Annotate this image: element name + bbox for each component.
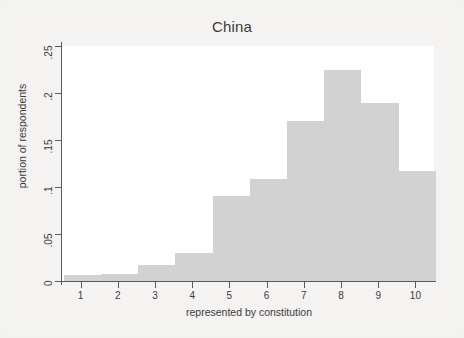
plot-inner (62, 46, 434, 281)
x-axis-tick (415, 282, 416, 288)
y-axis-tick-label: .25 (8, 40, 48, 52)
histogram-bar (175, 253, 212, 281)
x-axis-tick-label: 8 (330, 290, 352, 301)
x-axis-tick-label: 3 (144, 290, 166, 301)
x-axis-tick (229, 282, 230, 288)
histogram-bar (324, 70, 361, 281)
x-axis-tick-label: 5 (218, 290, 240, 301)
x-axis-tick-label: 1 (70, 290, 92, 301)
y-axis-tick-label: .05 (8, 228, 48, 240)
x-axis-tick-label: 4 (181, 290, 203, 301)
y-axis-tick-label: 0 (8, 275, 48, 287)
y-axis-tick-label: .2 (8, 87, 48, 99)
histogram-figure: China portion of respondents represented… (0, 0, 464, 338)
y-axis-tick-label: .1 (8, 181, 48, 193)
y-axis-tick (55, 140, 61, 141)
plot-area (62, 46, 434, 281)
x-axis-tick-label: 10 (404, 290, 426, 301)
histogram-bar (138, 265, 175, 281)
y-axis-line (61, 42, 62, 285)
y-axis-tick (55, 234, 61, 235)
histogram-bar (287, 121, 324, 281)
x-axis-tick-label: 7 (293, 290, 315, 301)
x-axis-title: represented by constitution (62, 306, 436, 318)
x-axis-tick (304, 282, 305, 288)
y-axis-tick (55, 46, 61, 47)
histogram-bar (101, 274, 138, 281)
histogram-bar (213, 196, 250, 281)
y-axis-tick (55, 281, 61, 282)
x-axis-tick (267, 282, 268, 288)
x-axis-tick (155, 282, 156, 288)
x-axis-tick-label: 2 (107, 290, 129, 301)
x-axis-tick (192, 282, 193, 288)
y-axis-tick (55, 187, 61, 188)
histogram-bar (250, 179, 287, 281)
x-axis-tick (378, 282, 379, 288)
histogram-bar (361, 103, 398, 281)
x-axis-tick (341, 282, 342, 288)
x-axis-tick (118, 282, 119, 288)
y-axis-tick (55, 93, 61, 94)
histogram-bar (399, 171, 436, 281)
y-axis-tick-label: .15 (8, 134, 48, 146)
x-axis-tick-label: 6 (256, 290, 278, 301)
chart-title: China (0, 18, 464, 35)
x-axis-tick (81, 282, 82, 288)
x-axis-tick-label: 9 (367, 290, 389, 301)
